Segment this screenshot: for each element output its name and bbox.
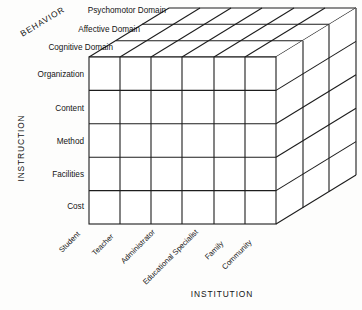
- row-label-facilities: Facilities: [52, 170, 84, 179]
- column-label-student: Student: [57, 229, 83, 255]
- matrix-cube-figure: Psychomotor Domain Affective Domain Cogn…: [0, 0, 362, 310]
- row-label-cost: Cost: [67, 202, 85, 211]
- row-label-content: Content: [55, 104, 84, 113]
- row-label-method: Method: [57, 137, 85, 146]
- depth-label-psychomotor: Psychomotor Domain: [88, 6, 167, 15]
- depth-label-affective: Affective Domain: [78, 25, 140, 34]
- row-label-organization: Organization: [38, 70, 85, 79]
- vertical-axis-title: INSTRUCTION: [16, 114, 26, 181]
- cube-front-face: [89, 57, 276, 224]
- horizontal-axis-title: INSTITUTION: [191, 289, 253, 299]
- column-label-teacher: Teacher: [90, 232, 116, 258]
- column-label-family: Family: [203, 239, 225, 261]
- depth-axis-title: BEHAVIOR: [19, 4, 67, 38]
- depth-label-cognitive: Cognitive Domain: [48, 43, 113, 52]
- column-label-community: Community: [220, 238, 254, 272]
- column-label-administrator: Administrator: [119, 227, 157, 265]
